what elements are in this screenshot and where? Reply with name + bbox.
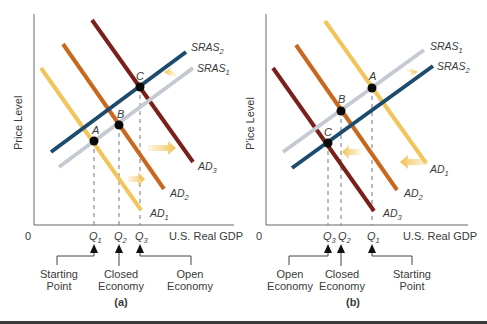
origin-label: 0	[25, 230, 31, 242]
shift-arrow-sras-right	[406, 68, 418, 76]
x-axis-label: U.S. Real GDP	[169, 230, 243, 242]
callout-closed-economy-text: ClosedEconomy	[98, 268, 144, 292]
callout-closed-economy-text: ClosedEconomy	[319, 268, 365, 292]
sras1-label: SRAS1	[430, 40, 463, 55]
callout-closed-economy	[115, 244, 123, 266]
callout-open-economy	[289, 244, 332, 265]
callout-open-economy-text: OpenEconomy	[167, 268, 213, 292]
q1-label: Q1	[89, 230, 102, 245]
point-c-label: C	[324, 126, 332, 138]
ad3-curve	[273, 68, 374, 211]
x-axis-label: U.S. Real GDP	[403, 230, 477, 242]
point-a	[368, 84, 377, 93]
ad2-curve	[63, 44, 164, 189]
ad2-curve	[296, 45, 397, 190]
shift-arrow-ad-right-upper	[148, 141, 176, 155]
ad3-label: AD3	[382, 207, 403, 222]
ad1-curve	[325, 21, 426, 163]
q2-label: Q2	[338, 230, 352, 245]
callout-starting-point	[57, 244, 98, 265]
ad2-label: AD2	[169, 187, 190, 202]
callout-closed-economy	[337, 244, 345, 266]
sras1-curve	[59, 68, 193, 167]
point-b-label: B	[117, 108, 124, 120]
callout-open-economy	[136, 244, 191, 265]
point-c	[324, 139, 333, 148]
ad1-label: AD1	[429, 163, 449, 178]
sras2-label: SRAS2	[437, 60, 471, 75]
q1-label: Q1	[367, 230, 380, 245]
point-c-label: C	[136, 70, 144, 82]
q3-label: Q3	[135, 230, 149, 245]
panel-a-label: (a)	[114, 296, 128, 308]
callout-open-economy-text: OpenEconomy	[267, 268, 313, 292]
point-c	[136, 83, 145, 92]
q2-label: Q2	[114, 230, 128, 245]
panel-b: P'ice Level 0 U.S. Real GDP A B C SRAS1 …	[244, 14, 477, 308]
point-b-label: B	[338, 93, 345, 105]
ad2-label: AD2	[403, 187, 424, 202]
q3-label: Q3	[323, 230, 337, 245]
ad-as-diagram: Price Level 0 U.S. Real GDP A B C	[0, 0, 487, 324]
sras1-curve	[283, 50, 424, 152]
callout-starting-point	[368, 244, 412, 265]
shift-arrow-ad-left-lower	[342, 145, 361, 159]
point-a-label: A	[368, 70, 376, 82]
sras2-label: SRAS2	[191, 41, 225, 56]
y-axis-label: Price Level	[12, 96, 24, 150]
point-b	[115, 121, 124, 130]
sras2-curve	[292, 66, 433, 168]
panel-a: Price Level 0 U.S. Real GDP A B C	[12, 14, 243, 308]
origin-label: 0	[256, 230, 262, 242]
y-axis-label: P'ice Level	[244, 97, 256, 150]
point-a-label: A	[91, 124, 99, 136]
callout-starting-point-text: StartingPoint	[393, 268, 431, 292]
ad1-label: AD1	[149, 207, 169, 222]
panel-b-label: (b)	[346, 296, 360, 308]
point-a	[90, 137, 99, 146]
ad3-curve	[92, 20, 193, 162]
ad3-label: AD3	[197, 160, 218, 175]
shift-arrow-ad-right-lower	[128, 172, 145, 186]
callout-starting-point-text: StartingPoint	[40, 268, 78, 292]
point-b	[337, 107, 346, 116]
sras1-label: SRAS1	[197, 62, 230, 77]
